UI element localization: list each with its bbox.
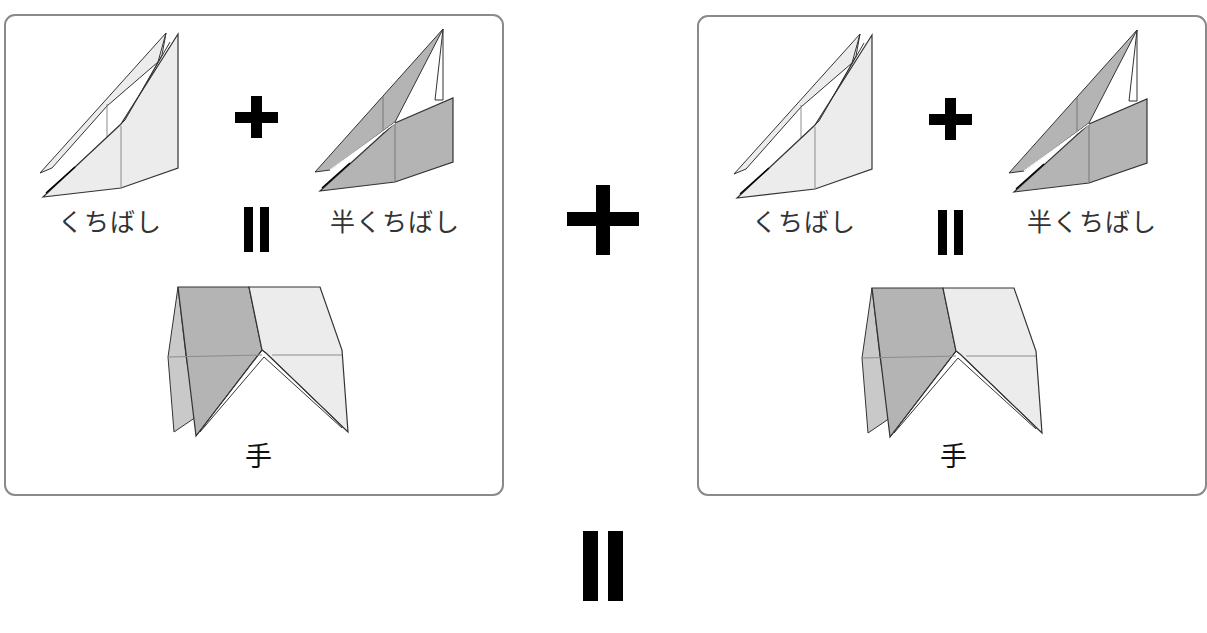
right-panel <box>697 15 1207 496</box>
left-panel <box>4 14 504 496</box>
hand-label-right: 手 <box>940 442 968 472</box>
beak-label-right: くちばし <box>752 208 856 238</box>
half-beak-label-right: 半くちばし <box>1027 208 1157 238</box>
beak-label-left: くちばし <box>58 208 162 238</box>
hand-label-left: 手 <box>245 442 273 472</box>
half-beak-label-left: 半くちばし <box>330 208 460 238</box>
